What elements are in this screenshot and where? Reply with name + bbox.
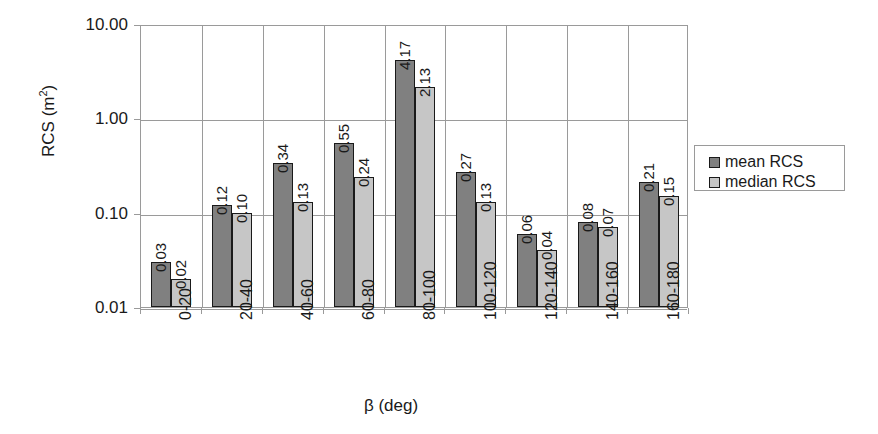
x-tick-label: 100-120 bbox=[483, 261, 499, 320]
x-tick-mark bbox=[505, 308, 506, 314]
bar-value-label: 0.06 bbox=[519, 214, 534, 243]
gridline-vertical bbox=[385, 26, 386, 307]
gridline-vertical bbox=[506, 26, 507, 307]
bar-value-label: 0.02 bbox=[173, 259, 188, 288]
bar-value-label: 0.24 bbox=[356, 158, 371, 187]
x-tick-mark bbox=[627, 308, 628, 314]
bar-mean bbox=[273, 163, 293, 307]
bar-mean bbox=[395, 60, 415, 307]
gridline-vertical bbox=[263, 26, 264, 307]
bar-mean bbox=[517, 234, 537, 307]
rcs-bar-chart: RCS (m2) 10.001.000.100.01 0.030.020.120… bbox=[0, 0, 878, 434]
x-tick-label: 20-40 bbox=[239, 279, 255, 320]
x-tick-mark bbox=[201, 308, 202, 314]
x-tick-mark bbox=[384, 308, 385, 314]
bar-value-label: 0.15 bbox=[661, 177, 676, 206]
x-tick-mark bbox=[323, 308, 324, 314]
legend-swatch-median-rcs bbox=[709, 177, 720, 188]
bar-value-label: 0.04 bbox=[539, 231, 554, 260]
legend-label-mean-rcs: mean RCS bbox=[725, 154, 803, 170]
y-tick-label: 10.00 bbox=[72, 16, 128, 33]
x-tick-label: 40-60 bbox=[300, 279, 316, 320]
y-tick-label: 0.10 bbox=[72, 205, 128, 222]
legend-item-mean-rcs[interactable]: mean RCS bbox=[709, 154, 803, 170]
gridline-vertical bbox=[445, 26, 446, 307]
bar-value-label: 0.34 bbox=[275, 143, 290, 172]
x-tick-mark bbox=[444, 308, 445, 314]
x-axis-title: β (deg) bbox=[316, 396, 466, 416]
y-axis-title-text: RCS (m bbox=[39, 97, 58, 157]
x-tick-label: 160-180 bbox=[666, 261, 682, 320]
x-tick-mark bbox=[566, 308, 567, 314]
gridline-vertical bbox=[628, 26, 629, 307]
bar-mean bbox=[456, 172, 476, 307]
x-tick-mark bbox=[688, 308, 689, 314]
bar-mean bbox=[639, 182, 659, 307]
x-tick-mark bbox=[262, 308, 263, 314]
x-tick-label: 80-100 bbox=[422, 270, 438, 320]
bar-value-label: 0.03 bbox=[153, 243, 168, 272]
gridline-vertical bbox=[567, 26, 568, 307]
legend-item-median-rcs[interactable]: median RCS bbox=[709, 174, 816, 190]
x-tick-label: 60-80 bbox=[361, 279, 377, 320]
legend-swatch-mean-rcs bbox=[709, 157, 720, 168]
legend: mean RCS median RCS bbox=[694, 145, 845, 191]
x-tick-label: 140-160 bbox=[605, 261, 621, 320]
gridline-vertical bbox=[324, 26, 325, 307]
gridline-vertical bbox=[202, 26, 203, 307]
y-axis-title-superscript: 2 bbox=[37, 90, 49, 96]
x-tick-mark bbox=[140, 308, 141, 314]
bar-value-label: 0.13 bbox=[295, 183, 310, 212]
bar-value-label: 0.27 bbox=[458, 153, 473, 182]
bar-value-label: 0.13 bbox=[478, 183, 493, 212]
y-tick-label: 1.00 bbox=[72, 110, 128, 127]
bar-mean bbox=[578, 222, 598, 307]
bar-value-label: 0.08 bbox=[580, 203, 595, 232]
x-tick-label: 120-140 bbox=[544, 261, 560, 320]
legend-label-median-rcs: median RCS bbox=[725, 174, 816, 190]
bar-value-label: 4.17 bbox=[397, 41, 412, 70]
bar-value-label: 0.21 bbox=[641, 163, 656, 192]
y-axis-title-tail: ) bbox=[39, 85, 58, 91]
bar-value-label: 0.55 bbox=[336, 124, 351, 153]
bar-value-label: 2.13 bbox=[417, 68, 432, 97]
bar-value-label: 0.10 bbox=[234, 193, 249, 222]
y-axis-title: RCS (m2) bbox=[37, 51, 59, 191]
bar-mean bbox=[334, 143, 354, 307]
bar-value-label: 0.07 bbox=[600, 208, 615, 237]
x-tick-label: 0-20 bbox=[178, 288, 194, 320]
bar-mean bbox=[212, 205, 232, 307]
bar-value-label: 0.12 bbox=[214, 186, 229, 215]
y-tick-label: 0.01 bbox=[72, 299, 128, 316]
